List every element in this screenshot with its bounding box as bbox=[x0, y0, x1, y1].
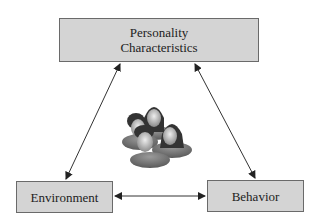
group-of-people-icon bbox=[122, 107, 192, 168]
arrow-personality-behavior bbox=[195, 64, 255, 178]
node-label-line1: Personality bbox=[130, 25, 189, 40]
node-personality-characteristics: PersonalityCharacteristics bbox=[59, 18, 259, 62]
arrow-personality-environment bbox=[66, 64, 120, 179]
node-behavior: Behavior bbox=[207, 180, 304, 212]
node-label: Environment bbox=[31, 190, 99, 205]
node-label: Behavior bbox=[232, 189, 280, 204]
node-environment: Environment bbox=[16, 181, 113, 213]
node-label-line2: Characteristics bbox=[120, 40, 197, 55]
